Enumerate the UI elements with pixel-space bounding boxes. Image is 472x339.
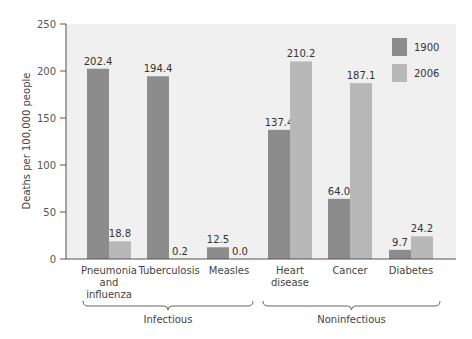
group-label: Infectious [144, 314, 193, 325]
y-tick-label: 50 [43, 207, 56, 218]
bar-2006 [290, 61, 312, 259]
category-label: and [100, 277, 119, 288]
category-label: influenza [86, 289, 132, 300]
legend-label: 1900 [414, 42, 439, 53]
bar-1900 [207, 247, 229, 259]
bar-2006 [350, 83, 372, 259]
y-tick-label: 0 [50, 254, 56, 265]
group-brace [263, 301, 440, 310]
group-label: Noninfectious [317, 314, 386, 325]
y-tick-label: 150 [37, 113, 56, 124]
bar-2006 [411, 236, 433, 259]
bar-1900 [87, 69, 109, 259]
value-label: 0.2 [172, 246, 188, 257]
category-label: Tuberculosis [137, 265, 199, 276]
y-axis-label: Deaths per 100,000 people [21, 73, 32, 210]
value-label: 12.5 [207, 234, 229, 245]
value-label: 64.0 [328, 186, 350, 197]
category-label: disease [271, 277, 309, 288]
bar-1900 [268, 130, 290, 259]
legend-swatch [392, 64, 407, 82]
category-label: Pneumonia [81, 265, 137, 276]
category-label: Measles [209, 265, 249, 276]
legend-swatch [392, 38, 407, 56]
bar-1900 [147, 76, 169, 259]
category-label: Cancer [332, 265, 368, 276]
value-label: 18.8 [109, 228, 131, 239]
plot-background [66, 24, 456, 259]
value-label: 202.4 [84, 56, 113, 67]
bar-2006 [109, 241, 131, 259]
value-label: 9.7 [392, 237, 408, 248]
group-brace [83, 301, 253, 310]
bar-1900 [328, 199, 350, 259]
value-label: 24.2 [411, 223, 433, 234]
y-tick-label: 250 [37, 19, 56, 30]
y-tick-label: 200 [37, 66, 56, 77]
value-label: 137.4 [265, 117, 294, 128]
y-tick-label: 100 [37, 160, 56, 171]
value-label: 187.1 [347, 70, 376, 81]
value-label: 194.4 [144, 63, 173, 74]
bar-1900 [389, 250, 411, 259]
category-label: Heart [276, 265, 304, 276]
value-label: 0.0 [232, 246, 248, 257]
value-label: 210.2 [287, 48, 316, 59]
category-label: Diabetes [389, 265, 433, 276]
legend-label: 2006 [414, 68, 439, 79]
bar-chart: 202.418.8194.40.212.50.0137.4210.264.018… [0, 0, 472, 339]
